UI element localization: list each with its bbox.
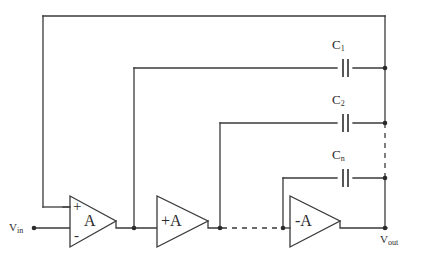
vin-name: V: [9, 221, 17, 233]
vout-subscript: out: [388, 238, 398, 247]
node-dot-vout: [383, 226, 388, 231]
node-dot-amp3-input: [281, 226, 286, 231]
cn-name: C: [332, 147, 341, 162]
input-port-label: Vin: [9, 222, 23, 233]
circuit-diagram: C1 C2 Cn + - A +A -A Vin Vout: [0, 0, 422, 258]
amp2-gain-label: +A: [161, 213, 182, 229]
circuit-schematic-canvas: [0, 0, 422, 258]
amp1-plus-sign: +: [73, 199, 81, 214]
node-dot-vin: [32, 226, 37, 231]
c1-name: C: [332, 37, 341, 52]
node-dot-c2-bus: [383, 121, 388, 126]
cn-subscript: n: [341, 154, 345, 163]
capacitor-label-cn: Cn: [332, 148, 345, 161]
output-port-label: Vout: [380, 234, 398, 245]
wire-amp3-output-to-vout: [340, 221, 387, 228]
c1-subscript: 1: [341, 44, 345, 53]
amp1-minus-sign: -: [74, 228, 79, 243]
c2-name: C: [332, 92, 341, 107]
vin-subscript: in: [17, 226, 23, 235]
c2-subscript: 2: [341, 99, 345, 108]
amp1-gain-label: A: [84, 213, 96, 229]
capacitor-label-c2: C2: [332, 93, 345, 106]
capacitor-label-c1: C1: [332, 38, 345, 51]
amp3-gain-label: -A: [295, 213, 312, 229]
node-dot-amp1-output: [132, 226, 137, 231]
node-dot-c1-bus: [383, 66, 388, 71]
node-dot-cn-bus: [383, 176, 388, 181]
wire-amp1-output: [116, 221, 157, 228]
vout-name: V: [380, 233, 388, 245]
node-dot-amp2-output: [218, 226, 223, 231]
